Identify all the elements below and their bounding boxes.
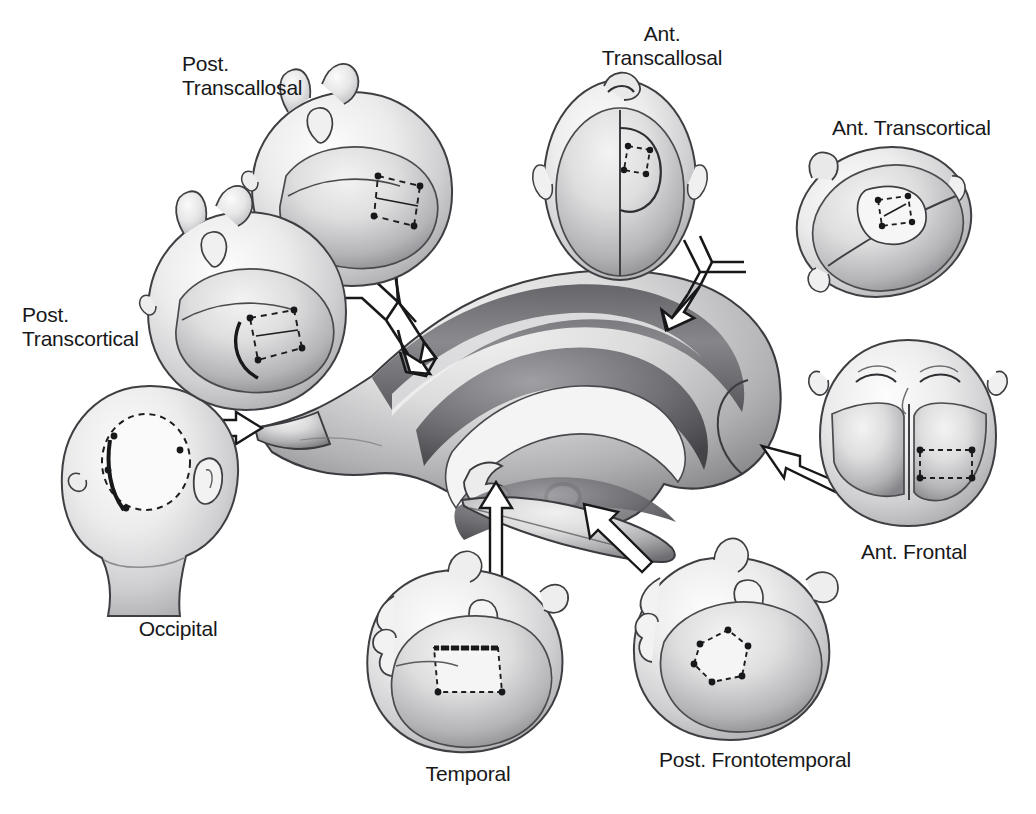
craniotomy-flap-temporal bbox=[434, 644, 505, 695]
label-temporal: Temporal bbox=[398, 762, 538, 786]
label-post-transcortical: Post. Transcortical bbox=[22, 303, 139, 352]
head-view-ant-transcortical bbox=[781, 129, 988, 315]
head-view-ant-transcallosal bbox=[533, 73, 707, 280]
head-view-ant-frontal bbox=[809, 340, 1007, 526]
craniotomy-flap-occipital bbox=[102, 414, 190, 511]
label-post-transcallosal: Post. Transcallosal bbox=[182, 52, 302, 101]
craniotomy-flap-ant-transcortical bbox=[857, 186, 926, 244]
label-post-frontotemporal: Post. Frontotemporal bbox=[635, 748, 875, 772]
label-ant-transcortical: Ant. Transcortical bbox=[832, 116, 991, 140]
label-ant-transcallosal: Ant. Transcallosal bbox=[582, 22, 742, 71]
label-occipital: Occipital bbox=[108, 617, 248, 641]
head-view-occipital bbox=[62, 386, 238, 616]
head-view-post-frontotemporal bbox=[634, 538, 838, 740]
surgical-approach-figure: Post. Transcallosal Ant. Transcallosal A… bbox=[0, 0, 1036, 814]
label-ant-frontal: Ant. Frontal bbox=[834, 540, 994, 564]
head-view-temporal bbox=[367, 551, 568, 752]
